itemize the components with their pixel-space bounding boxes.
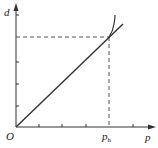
y-axis-label: d <box>4 6 10 18</box>
x-axis-arrow-icon <box>148 125 156 130</box>
ph-label-subscript: h <box>108 136 112 144</box>
x-axis-label: p <box>144 131 151 143</box>
y-axis-arrow-icon <box>14 3 19 11</box>
linear-series-line <box>16 24 123 127</box>
chart: d O ph p <box>0 0 158 148</box>
origin-label: O <box>6 130 14 142</box>
ph-label: ph <box>101 130 112 144</box>
